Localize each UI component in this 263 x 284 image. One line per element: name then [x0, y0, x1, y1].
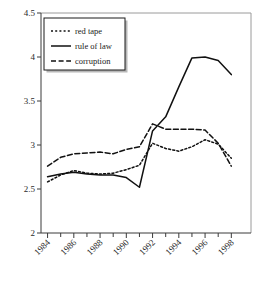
line-chart: 22.533.544.51984198619881990199219941996… [0, 0, 263, 284]
legend-label-red-tape: red tape [75, 26, 102, 36]
x-tick-label: 1988 [85, 237, 105, 257]
y-tick-label: 2.5 [24, 184, 36, 194]
x-tick-label: 1990 [111, 237, 131, 257]
x-tick-label: 1984 [32, 237, 52, 257]
legend-label-corruption: corruption [75, 56, 111, 66]
x-tick-label: 1986 [58, 237, 78, 257]
legend-label-rule-of-law: rule of law [75, 41, 113, 51]
x-tick-label: 1992 [137, 237, 157, 257]
y-tick-label: 4.5 [24, 8, 36, 18]
x-tick-label: 1996 [190, 237, 210, 257]
y-tick-label: 3.5 [24, 96, 36, 106]
y-tick-label: 2 [31, 228, 36, 238]
x-tick-label: 1994 [163, 237, 183, 257]
series-line-corruption [48, 124, 232, 166]
series-line-rule-of-law [48, 57, 232, 187]
y-tick-label: 4 [31, 52, 36, 62]
y-tick-label: 3 [31, 140, 36, 150]
x-tick-label: 1998 [216, 237, 236, 257]
chart-figure: 22.533.544.51984198619881990199219941996… [0, 0, 263, 284]
